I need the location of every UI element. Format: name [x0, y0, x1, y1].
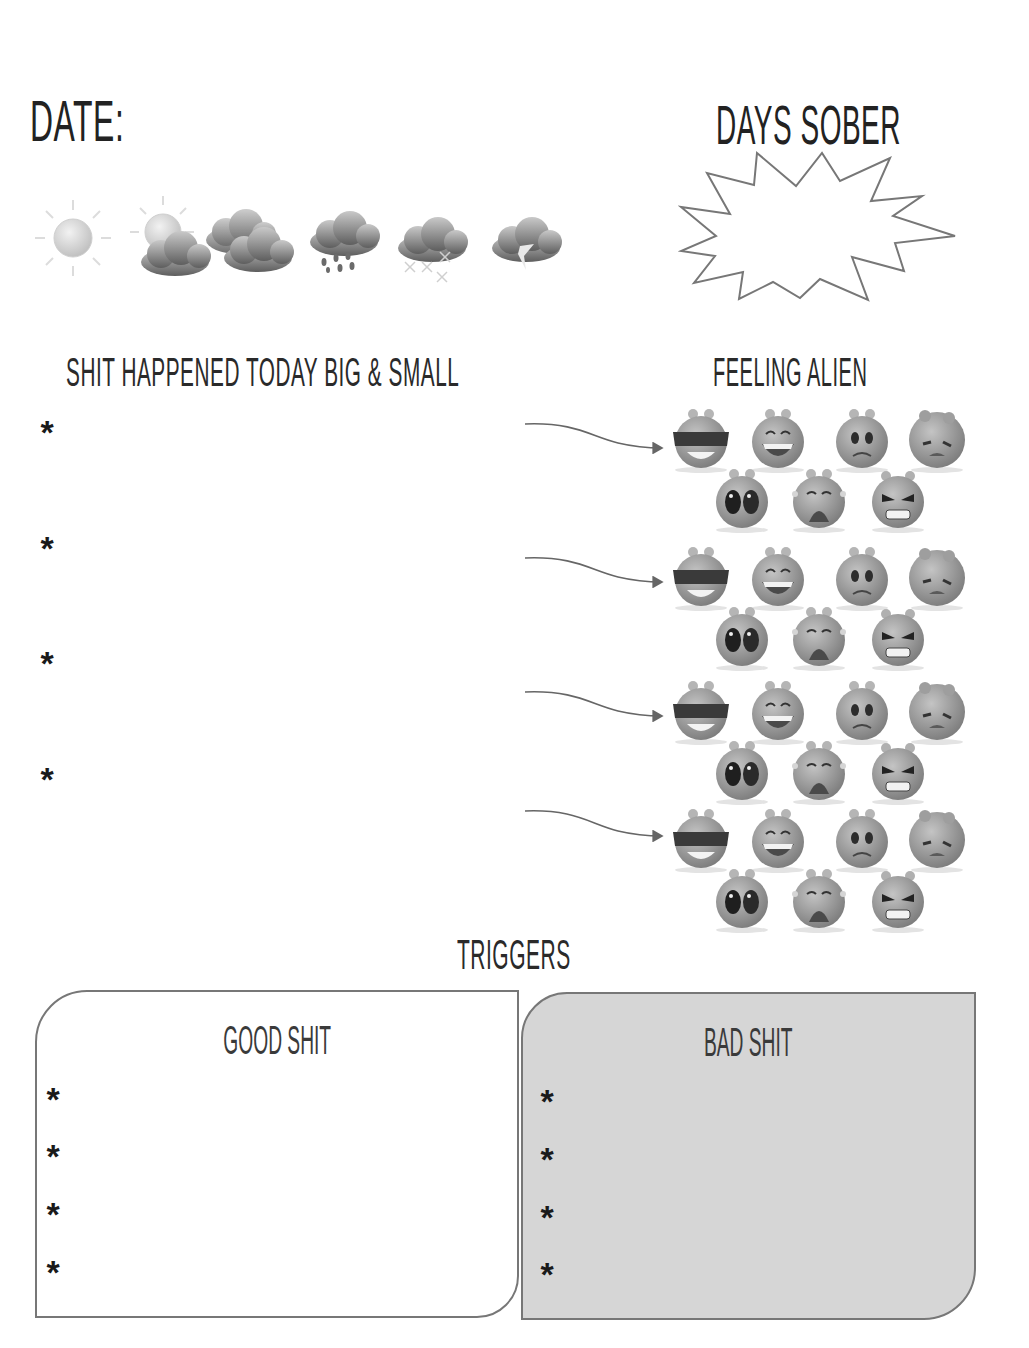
- good-bullet-3: *: [46, 1197, 59, 1231]
- bad-triggers-box[interactable]: Bad Shit: [521, 992, 976, 1320]
- rain-cloud-icon[interactable]: [310, 211, 380, 273]
- event-entry-4[interactable]: [70, 757, 510, 847]
- bad-bullet-1: *: [540, 1084, 553, 1118]
- triggers-heading: Triggers: [457, 934, 571, 976]
- sun-icon[interactable]: [35, 200, 111, 276]
- event-entry-1[interactable]: [70, 410, 510, 500]
- sun-behind-cloud-icon[interactable]: [130, 196, 211, 276]
- event-bullet-4: *: [40, 762, 53, 796]
- bad-triggers-title: Bad Shit: [523, 1022, 974, 1062]
- arrows: [520, 410, 670, 850]
- date-label: Date:: [30, 92, 124, 150]
- event-bullet-3: *: [40, 646, 53, 680]
- bad-bullet-3: *: [540, 1200, 553, 1234]
- arrow-3: [525, 692, 662, 716]
- arrow-2: [525, 558, 662, 582]
- days-sober-label: Days Sober: [716, 97, 901, 153]
- good-bullet-1: *: [46, 1082, 59, 1116]
- event-entry-3[interactable]: [70, 641, 510, 731]
- good-bullet-4: *: [46, 1255, 59, 1289]
- events-heading: Shit Happened Today Big & Small: [66, 352, 459, 392]
- snow-cloud-icon[interactable]: [398, 217, 468, 282]
- event-bullet-1: *: [40, 415, 53, 449]
- good-triggers-box[interactable]: Good Shit: [35, 990, 519, 1318]
- event-bullet-2: *: [40, 531, 53, 565]
- mood-group-3[interactable]: [673, 681, 965, 805]
- days-sober-starburst[interactable]: [678, 148, 960, 304]
- good-bullet-2: *: [46, 1139, 59, 1173]
- mood-group-4[interactable]: [673, 809, 965, 933]
- arrow-4: [525, 811, 662, 836]
- weather-row: [25, 190, 585, 290]
- bad-bullet-4: *: [540, 1257, 553, 1291]
- lightning-cloud-icon[interactable]: [492, 217, 562, 270]
- good-triggers-title: Good Shit: [37, 1020, 517, 1060]
- mood-group-2[interactable]: [673, 547, 965, 671]
- feeling-heading: Feeling alien: [713, 352, 867, 392]
- alien-mood-grid: [665, 400, 975, 940]
- mood-group-1[interactable]: [673, 409, 965, 533]
- bad-bullet-2: *: [540, 1142, 553, 1176]
- clouds-icon[interactable]: [206, 209, 294, 272]
- arrow-1: [525, 424, 662, 448]
- event-entry-2[interactable]: [70, 526, 510, 616]
